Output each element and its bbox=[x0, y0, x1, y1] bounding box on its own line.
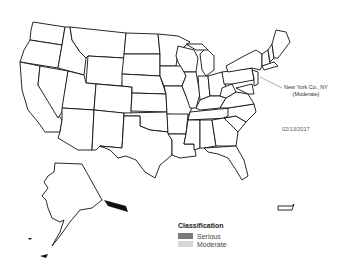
annotation-label: New York Co., NY (Moderate) bbox=[276, 84, 336, 97]
legend-item-moderate: Moderate bbox=[178, 240, 227, 248]
legend-label: Moderate bbox=[197, 241, 227, 248]
date-label: 02/13/2017 bbox=[282, 126, 310, 132]
puerto-rico bbox=[278, 204, 294, 210]
alaska bbox=[28, 163, 128, 258]
legend-label: Serious bbox=[197, 233, 221, 240]
legend: Classification Serious Moderate bbox=[178, 222, 227, 248]
serious-swatch bbox=[178, 233, 193, 239]
legend-title: Classification bbox=[178, 222, 227, 229]
moderate-swatch bbox=[178, 241, 193, 247]
state-outlines bbox=[20, 22, 290, 180]
annotation-county: New York Co., NY bbox=[276, 84, 336, 91]
us-map bbox=[0, 0, 341, 272]
annotation-classification: (Moderate) bbox=[276, 91, 336, 98]
legend-item-serious: Serious bbox=[178, 232, 227, 240]
